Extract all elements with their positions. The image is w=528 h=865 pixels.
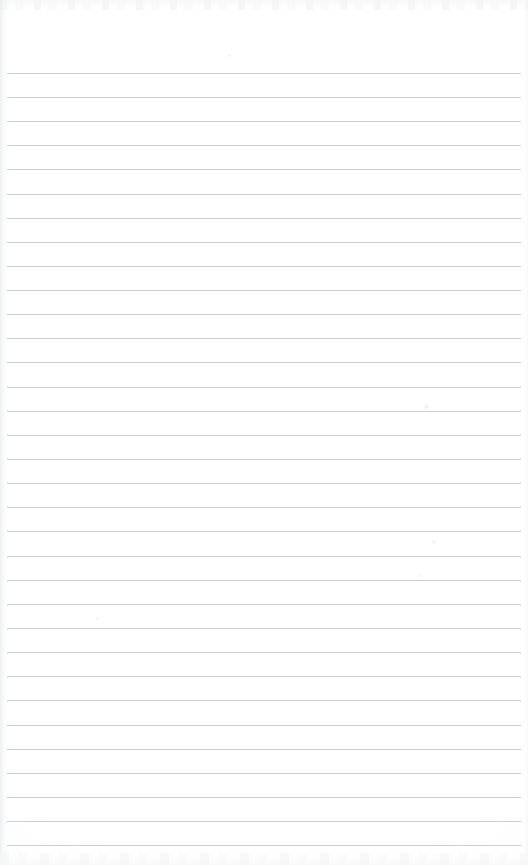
writing-row[interactable]	[8, 292, 522, 316]
writing-row[interactable]	[8, 244, 522, 268]
writing-row[interactable]	[8, 172, 522, 196]
writing-row[interactable]	[8, 775, 522, 799]
writing-row[interactable]	[8, 485, 522, 509]
writing-row[interactable]	[8, 558, 522, 582]
writing-row[interactable]	[8, 340, 522, 364]
writing-row[interactable]	[8, 823, 522, 847]
writing-row[interactable]	[8, 413, 522, 437]
writing-row[interactable]	[8, 606, 522, 630]
writing-row[interactable]	[8, 654, 522, 678]
writing-row[interactable]	[8, 365, 522, 389]
writing-row[interactable]	[8, 582, 522, 606]
writing-row[interactable]	[8, 316, 522, 340]
writing-row[interactable]	[8, 437, 522, 461]
writing-row[interactable]	[8, 534, 522, 558]
writing-row[interactable]	[8, 461, 522, 485]
writing-row[interactable]	[8, 703, 522, 727]
writing-row[interactable]	[8, 751, 522, 775]
writing-row[interactable]	[8, 196, 522, 220]
writing-row[interactable]	[8, 630, 522, 654]
writing-row[interactable]	[8, 75, 522, 99]
writing-row[interactable]	[8, 727, 522, 751]
writing-row[interactable]	[8, 51, 522, 75]
writing-row[interactable]	[8, 799, 522, 823]
writing-row[interactable]	[8, 389, 522, 413]
writing-row[interactable]	[8, 123, 522, 147]
writing-row[interactable]	[8, 99, 522, 123]
writing-row[interactable]	[8, 268, 522, 292]
writing-row[interactable]	[8, 509, 522, 533]
writing-row[interactable]	[8, 220, 522, 244]
writing-row[interactable]	[8, 678, 522, 702]
writing-row[interactable]	[8, 147, 522, 171]
notepad-page	[0, 0, 528, 865]
